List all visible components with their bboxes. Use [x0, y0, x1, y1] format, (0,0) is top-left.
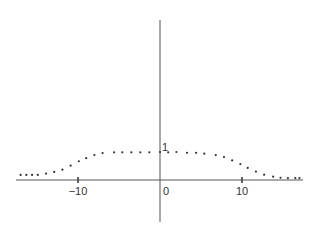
- data-point: [287, 177, 289, 179]
- data-point: [70, 165, 72, 167]
- data-point: [239, 163, 241, 165]
- data-point: [298, 177, 300, 179]
- data-point: [20, 174, 22, 176]
- data-point: [113, 151, 115, 153]
- data-point: [223, 156, 225, 158]
- data-point: [139, 151, 141, 153]
- data-point: [53, 171, 55, 173]
- x-tick-label: −10: [69, 185, 88, 197]
- data-point: [215, 154, 217, 156]
- data-point: [186, 152, 188, 154]
- data-point: [45, 172, 47, 174]
- data-point: [279, 177, 281, 179]
- data-point: [37, 174, 39, 176]
- data-point: [195, 152, 197, 154]
- data-point: [263, 174, 265, 176]
- x-tick-label: 10: [236, 185, 248, 197]
- data-point: [85, 157, 87, 159]
- data-point: [130, 151, 132, 153]
- data-point: [148, 151, 150, 153]
- data-point: [231, 159, 233, 161]
- data-point: [159, 151, 161, 153]
- data-point: [78, 160, 80, 162]
- data-point: [25, 174, 27, 176]
- x-tick-label: 0: [163, 185, 169, 197]
- data-point: [175, 151, 177, 153]
- data-point: [272, 176, 274, 178]
- data-point: [121, 151, 123, 153]
- y-tick-label: 1: [162, 141, 168, 153]
- data-point: [31, 174, 33, 176]
- data-point: [294, 177, 296, 179]
- data-point: [61, 169, 63, 171]
- axis-ticks: −100101: [69, 141, 248, 197]
- data-point: [102, 152, 104, 154]
- data-point: [167, 151, 169, 153]
- scatter-plot: −100101: [0, 0, 319, 232]
- data-point: [255, 171, 257, 173]
- data-point: [203, 153, 205, 155]
- data-point: [93, 154, 95, 156]
- data-point: [247, 167, 249, 169]
